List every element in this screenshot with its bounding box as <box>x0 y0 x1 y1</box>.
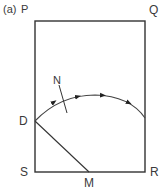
point-label-m: M <box>84 177 94 188</box>
corner-label-s: S <box>20 166 28 178</box>
corner-label-r: R <box>150 166 159 178</box>
corner-label-p: P <box>21 3 28 15</box>
point-label-d: D <box>19 115 28 127</box>
arrow-icon <box>48 102 54 106</box>
normal-line <box>59 85 67 113</box>
corner-label-q: Q <box>149 4 158 16</box>
line-dm <box>35 121 89 172</box>
rectangle-pqrs <box>35 21 145 172</box>
part-label: (a) <box>3 3 16 15</box>
ray-diagram <box>0 0 162 188</box>
normal-label-n: N <box>53 74 61 86</box>
curved-path-arc <box>35 95 145 121</box>
